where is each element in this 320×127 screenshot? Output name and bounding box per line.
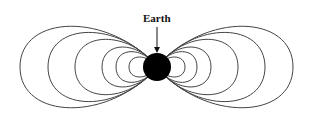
field-line <box>157 26 293 107</box>
earth-label: Earth <box>143 12 171 24</box>
field-line <box>20 26 157 107</box>
earth-circle <box>143 53 171 81</box>
arrow-head-icon <box>154 47 160 53</box>
